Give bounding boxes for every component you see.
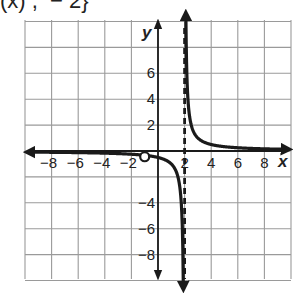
x-axis-label: x — [277, 152, 289, 171]
y-tick-label: 2 — [147, 116, 155, 133]
x-tick-label: 6 — [234, 154, 242, 171]
y-tick-label: 4 — [147, 90, 155, 107]
hole-open-circle — [140, 152, 149, 161]
x-tick-label: 8 — [260, 154, 268, 171]
x-tick-label: 4 — [207, 154, 215, 171]
y-tick-label: −8 — [138, 246, 155, 263]
y-tick-label: −4 — [138, 194, 155, 211]
x-tick-label: −6 — [67, 154, 84, 171]
x-tick-label: −8 — [40, 154, 57, 171]
y-tick-label: −6 — [138, 220, 155, 237]
y-tick-label: 6 — [147, 64, 155, 81]
rational-function-graph: yx −8−6−4−22468642−4−6−8 — [0, 0, 307, 294]
tick-labels: −8−6−4−22468642−4−6−8 — [40, 64, 269, 262]
y-axis-label: y — [141, 23, 153, 42]
x-tick-label: −4 — [93, 154, 110, 171]
x-tick-label: −2 — [120, 154, 137, 171]
curve-right-branch — [186, 15, 287, 149]
